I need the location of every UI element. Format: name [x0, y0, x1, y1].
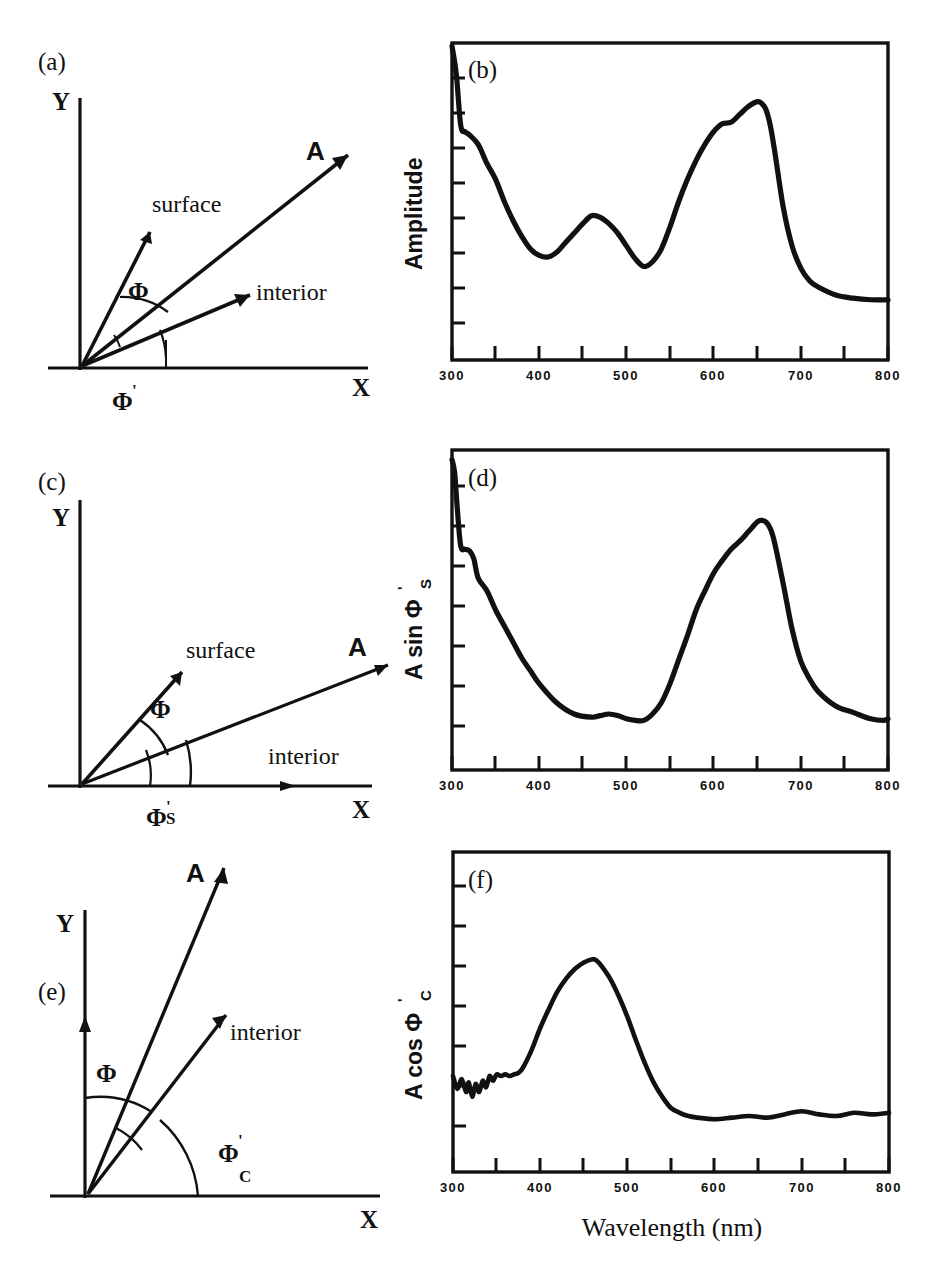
x-axis-title: Wavelength (nm): [582, 1213, 763, 1242]
chart-f-xticks: [453, 1158, 889, 1172]
phi-angle-label: Φ: [150, 696, 171, 723]
panel-d-chart: A sin Φ ' S (d): [392, 430, 934, 830]
phi-angle-arc: [85, 1097, 152, 1112]
xtick-800: 800: [875, 778, 901, 793]
y-axis-arrowhead: [79, 1016, 91, 1032]
chart-f-xticklabels: 300 400 500 600 700 800: [440, 1180, 902, 1195]
y-axis-label: Y: [56, 910, 74, 937]
chart-b-data-curve: [452, 46, 888, 300]
interior-arrowhead: [280, 781, 296, 791]
panel-e-diagram: (e) Y X A interior Φ Φ ' C: [0, 820, 440, 1240]
chart-d-ylabel-subscript: S: [417, 579, 434, 589]
phi-angle-arc: [140, 720, 168, 755]
surface-vector-label: surface: [152, 191, 221, 217]
interior-arrowhead: [212, 1015, 226, 1029]
phi-prime-c-label: Φ: [218, 1140, 239, 1167]
phi-angle-label: Φ: [96, 1060, 117, 1087]
xtick-500: 500: [613, 778, 639, 793]
resultant-vector-label: A: [306, 136, 325, 166]
chart-d-data-curve: [452, 460, 888, 721]
interior-vector-label: interior: [230, 1019, 301, 1045]
panel-f-chart: A cos Φ ' C (f): [392, 830, 934, 1268]
chart-d-ylabel-group: A sin Φ ' S: [394, 579, 434, 680]
xtick-500: 500: [614, 1180, 640, 1195]
resultant-vector: [88, 868, 224, 1194]
panel-tag-f: (f): [468, 866, 493, 894]
phi-prime-c-mark: ': [238, 1131, 243, 1150]
phi-prime-s-arc-outer: [186, 740, 191, 786]
chart-f-ylabel-subscript: C: [417, 990, 434, 1001]
chart-f-ylabel: A cos Φ: [401, 1013, 427, 1100]
xtick-400: 400: [526, 368, 552, 383]
panel-tag-c: (c): [38, 468, 66, 496]
phi-prime-c-arc: [160, 1120, 198, 1196]
resultant-vector: [82, 665, 388, 784]
panel-tag-a: (a): [38, 48, 66, 76]
xtick-600: 600: [700, 368, 726, 383]
chart-b-xticks: [452, 346, 888, 360]
xtick-700: 700: [789, 1180, 815, 1195]
resultant-arrowhead: [214, 868, 228, 884]
surface-vector-label: surface: [186, 637, 255, 663]
phi-prime-s-arc-inner: [146, 750, 151, 786]
interior-vector: [88, 1015, 226, 1194]
chart-d-frame: [452, 450, 888, 770]
y-axis-label: Y: [52, 88, 70, 115]
phi-prime-c-subscript: C: [239, 1167, 251, 1186]
panel-tag-d: (d): [468, 464, 497, 492]
resultant-vector-label: A: [186, 858, 205, 888]
resultant-vector: [82, 155, 348, 366]
panel-a-diagram: (a) Y X surface A interior Φ Φ ': [0, 0, 440, 420]
panel-c-diagram: (c) Y X surface A interior Φ Φ ': [0, 420, 440, 830]
xtick-400: 400: [526, 778, 552, 793]
panel-tag-e: (e): [38, 978, 66, 1006]
xtick-700: 700: [788, 368, 814, 383]
panel-tag-b: (b): [468, 56, 497, 84]
chart-d-xticklabels: 300 400 500 600 700 800: [439, 778, 901, 793]
chart-f-ylabel-prime: ': [394, 998, 411, 1002]
xtick-600: 600: [701, 1180, 727, 1195]
surface-vector: [82, 672, 182, 784]
xtick-300: 300: [439, 778, 465, 793]
x-axis-label: X: [360, 1206, 378, 1233]
xtick-300: 300: [439, 368, 465, 383]
chart-d-ylabel: A sin Φ: [401, 599, 427, 680]
chart-d-ylabel-prime: ': [394, 586, 411, 590]
chart-b-xticklabels: 300 400 500 600 700 800: [439, 368, 901, 383]
phi-prime-mark: ': [132, 381, 137, 400]
interior-vector-label: interior: [268, 743, 339, 769]
x-axis-label: X: [352, 374, 370, 401]
phi-prime-label: Φ: [112, 388, 133, 415]
xtick-500: 500: [613, 368, 639, 383]
interior-vector-label: interior: [256, 279, 327, 305]
chart-b-frame: [452, 43, 888, 360]
y-axis-label: Y: [52, 504, 70, 531]
xtick-300: 300: [440, 1180, 466, 1195]
xtick-600: 600: [700, 778, 726, 793]
xtick-800: 800: [876, 1180, 902, 1195]
chart-f-frame: [453, 852, 889, 1172]
panel-b-chart: Amplitude (b) 300: [392, 20, 934, 420]
chart-d-xticks: [452, 756, 888, 770]
xtick-800: 800: [875, 368, 901, 383]
xtick-700: 700: [788, 778, 814, 793]
chart-f-data-curve: [453, 959, 889, 1119]
phi-angle-label: Φ: [128, 278, 149, 305]
chart-f-ylabel-group: A cos Φ ' C: [394, 990, 434, 1100]
chart-b-ylabel: Amplitude: [401, 158, 427, 270]
xtick-400: 400: [527, 1180, 553, 1195]
resultant-arrowhead: [374, 665, 388, 676]
resultant-vector-label: A: [348, 632, 367, 662]
